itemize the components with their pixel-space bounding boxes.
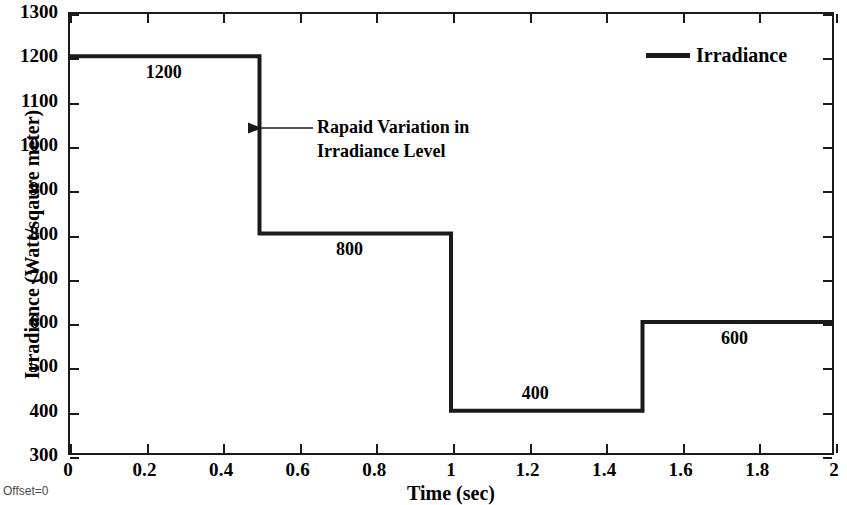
y-tick-right-500 xyxy=(823,368,832,370)
x-tick-1.6 xyxy=(683,444,685,453)
y-tick-700 xyxy=(70,280,79,282)
y-tick-label-1300: 1300 xyxy=(0,1,58,23)
y-tick-800 xyxy=(70,236,79,238)
x-tick-top-0.8 xyxy=(376,14,378,23)
annotation-line-2: Irradiance Level xyxy=(317,139,469,163)
y-tick-1200 xyxy=(70,58,79,60)
step-value-label-1200: 1200 xyxy=(146,62,182,83)
y-tick-500 xyxy=(70,368,79,370)
x-tick-2 xyxy=(836,444,838,453)
x-axis-title: Time (sec) xyxy=(68,482,834,505)
x-tick-0.8 xyxy=(376,444,378,453)
x-tick-top-1.4 xyxy=(606,14,608,23)
x-tick-label-0.4: 0.4 xyxy=(209,459,233,481)
x-tick-1.2 xyxy=(530,444,532,453)
x-tick-label-0.2: 0.2 xyxy=(132,459,156,481)
step-value-label-600: 600 xyxy=(721,328,748,349)
x-tick-label-1.8: 1.8 xyxy=(745,459,769,481)
x-tick-1 xyxy=(453,444,455,453)
y-tick-right-1100 xyxy=(823,103,832,105)
x-tick-0.2 xyxy=(147,444,149,453)
y-tick-1000 xyxy=(70,147,79,149)
y-tick-1300 xyxy=(70,14,79,16)
x-tick-label-0.8: 0.8 xyxy=(362,459,386,481)
annotation-label: Rapaid Variation in Irradiance Level xyxy=(317,115,469,164)
x-tick-top-1.8 xyxy=(759,14,761,23)
x-tick-label-1.4: 1.4 xyxy=(592,459,616,481)
plot-area xyxy=(68,12,834,455)
x-tick-label-1: 1 xyxy=(446,459,456,481)
legend-line-swatch-irradiance xyxy=(646,53,690,58)
x-tick-label-1.6: 1.6 xyxy=(669,459,693,481)
x-tick-top-1.2 xyxy=(530,14,532,23)
y-tick-right-700 xyxy=(823,280,832,282)
x-tick-label-1.2: 1.2 xyxy=(515,459,539,481)
irradiance-step-chart: 00.20.40.60.811.21.41.61.82 300400500600… xyxy=(0,0,847,505)
x-tick-top-1.6 xyxy=(683,14,685,23)
offset-note: Offset=0 xyxy=(3,484,48,498)
x-tick-1.4 xyxy=(606,444,608,453)
x-tick-label-0.6: 0.6 xyxy=(286,459,310,481)
x-tick-1.8 xyxy=(759,444,761,453)
y-axis-title: Irradiance (Watt/sqaure meter) xyxy=(21,35,44,455)
y-tick-400 xyxy=(70,413,79,415)
y-tick-900 xyxy=(70,191,79,193)
x-tick-0.6 xyxy=(300,444,302,453)
x-tick-label-0: 0 xyxy=(63,459,73,481)
y-tick-right-600 xyxy=(823,324,832,326)
x-tick-top-0.6 xyxy=(300,14,302,23)
annotation-line-1: Rapaid Variation in xyxy=(317,115,469,139)
x-tick-0 xyxy=(70,444,72,453)
y-tick-right-1200 xyxy=(823,58,832,60)
x-tick-label-2: 2 xyxy=(829,459,839,481)
x-tick-top-0.4 xyxy=(223,14,225,23)
y-tick-1100 xyxy=(70,103,79,105)
y-tick-right-1000 xyxy=(823,147,832,149)
y-tick-right-400 xyxy=(823,413,832,415)
x-tick-top-1 xyxy=(453,14,455,23)
y-tick-600 xyxy=(70,324,79,326)
y-tick-right-900 xyxy=(823,191,832,193)
x-tick-0.4 xyxy=(223,444,225,453)
x-tick-top-0.2 xyxy=(147,14,149,23)
legend-label-irradiance: Irradiance xyxy=(696,44,787,67)
legend: Irradiance xyxy=(646,44,787,67)
y-tick-right-800 xyxy=(823,236,832,238)
step-value-label-400: 400 xyxy=(522,383,549,404)
x-tick-top-2 xyxy=(836,14,838,23)
y-tick-right-1300 xyxy=(823,14,832,16)
step-value-label-800: 800 xyxy=(336,239,363,260)
